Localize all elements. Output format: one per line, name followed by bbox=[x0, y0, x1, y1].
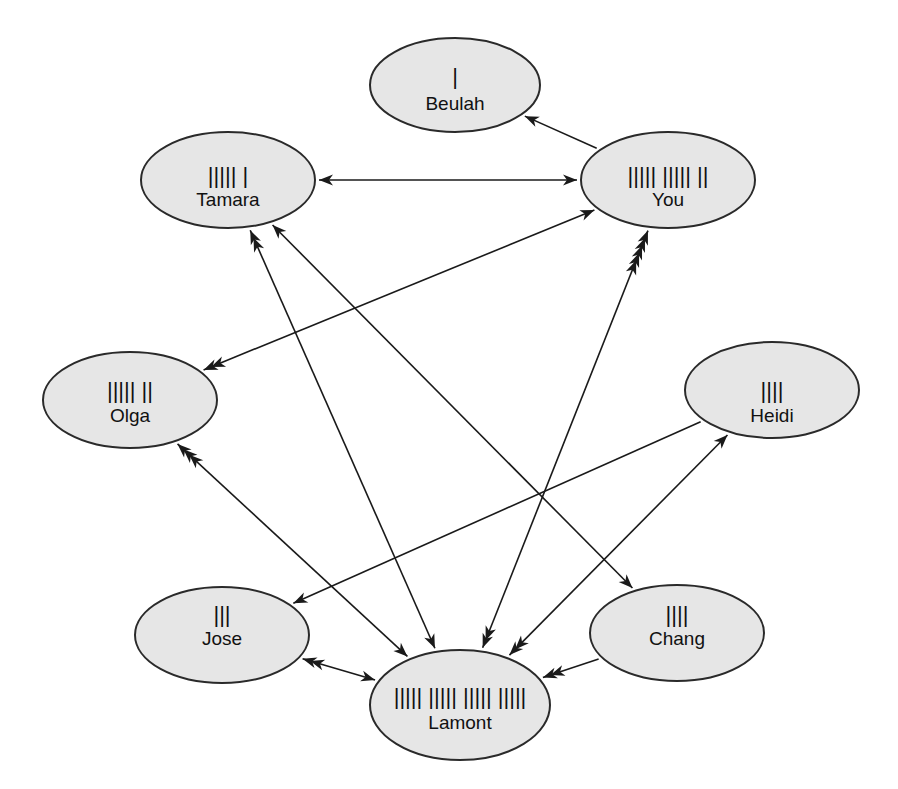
node-beulah: | Beulah bbox=[370, 38, 540, 132]
nodes-layer: | Beulah ||||| | Tamara ||||| ||||| || Y… bbox=[43, 38, 859, 760]
edge-you-beulah bbox=[525, 116, 597, 148]
edge-heidi-jose bbox=[293, 422, 700, 603]
tally-marks: |||| bbox=[761, 378, 784, 403]
node-tamara: ||||| | Tamara bbox=[141, 132, 315, 228]
node-jose: ||| Jose bbox=[135, 587, 309, 683]
node-label: Jose bbox=[202, 628, 242, 649]
node-heidi: |||| Heidi bbox=[685, 342, 859, 438]
tally-marks: ||||| ||||| ||||| ||||| bbox=[394, 684, 527, 709]
node-you: ||||| ||||| || You bbox=[581, 132, 755, 228]
node-olga: ||||| || Olga bbox=[43, 352, 217, 448]
node-label: You bbox=[652, 189, 684, 210]
tally-marks: ||| bbox=[213, 602, 230, 627]
node-label: Chang bbox=[649, 628, 705, 649]
tally-marks: ||||| ||||| || bbox=[628, 163, 709, 188]
node-lamont: ||||| ||||| ||||| ||||| Lamont bbox=[370, 650, 550, 760]
node-chang: |||| Chang bbox=[590, 585, 764, 681]
node-label: Heidi bbox=[750, 405, 793, 426]
edge-lamont-tamara bbox=[250, 230, 435, 648]
node-label: Beulah bbox=[425, 93, 484, 114]
node-label: Olga bbox=[110, 405, 151, 426]
edge-you-olga bbox=[204, 210, 595, 370]
tally-marks: ||||| | bbox=[208, 163, 248, 188]
sociogram-diagram: | Beulah ||||| | Tamara ||||| ||||| || Y… bbox=[0, 0, 898, 789]
node-label: Tamara bbox=[196, 189, 260, 210]
tally-marks: | bbox=[452, 64, 458, 89]
tally-marks: ||||| || bbox=[107, 378, 153, 403]
node-label: Lamont bbox=[428, 712, 492, 733]
edge-lamont-you bbox=[483, 231, 648, 648]
tally-marks: |||| bbox=[666, 602, 689, 627]
